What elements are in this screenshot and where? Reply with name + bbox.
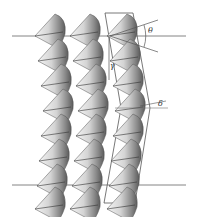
cone-lattice-diagram: θ γ δ bbox=[0, 0, 198, 217]
diagram-canvas bbox=[0, 0, 198, 217]
gamma-label: γ bbox=[110, 62, 115, 70]
cone-array bbox=[35, 14, 145, 217]
theta-label: θ bbox=[148, 27, 153, 35]
delta-label: δ bbox=[158, 100, 163, 108]
